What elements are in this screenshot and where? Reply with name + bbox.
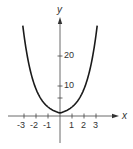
y-axis-label: y xyxy=(57,5,62,15)
x-tick-label-neg3: -3 xyxy=(17,121,25,130)
x-tick-label-3: 3 xyxy=(93,121,98,130)
x-axis-arrow-icon xyxy=(112,114,119,118)
y-axis-arrow-icon xyxy=(58,17,62,24)
x-tick-label-neg1: -1 xyxy=(43,121,51,130)
x-tick-label-1: 1 xyxy=(69,121,74,130)
y-tick-label-20: 20 xyxy=(64,51,74,60)
y-tick-label-10: 10 xyxy=(64,81,74,90)
x-axis-label: x xyxy=(122,111,127,121)
x-tick-label-2: 2 xyxy=(81,121,86,130)
x-tick-label-neg2: -2 xyxy=(30,121,38,130)
